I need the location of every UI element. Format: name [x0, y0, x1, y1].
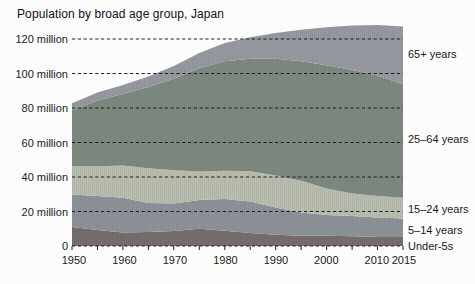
halftone-texture — [72, 25, 403, 246]
x-axis-label-1970: 1970 — [155, 254, 195, 266]
y-axis-label-20m: 20 million — [0, 206, 68, 218]
x-axis-label-1950: 1950 — [54, 254, 94, 266]
x-axis-label-2015: 2015 — [384, 254, 424, 266]
stacked-area-plot — [0, 0, 475, 284]
x-axis-label-1990: 1990 — [256, 254, 296, 266]
x-axis-label-2000: 2000 — [306, 254, 346, 266]
y-axis-label-0: 0 — [0, 240, 68, 252]
y-axis-label-120m: 120 million — [0, 33, 68, 45]
series-label-under5: Under-5s — [408, 240, 453, 252]
series-label-5-14: 5–14 years — [408, 224, 462, 236]
y-axis-label-80m: 80 million — [0, 102, 68, 114]
population-chart: Population by broad age group, Japan 120… — [0, 0, 475, 284]
series-label-15-24: 15–24 years — [408, 203, 469, 215]
x-axis-label-1980: 1980 — [205, 254, 245, 266]
series-label-25-64: 25–64 years — [408, 133, 469, 145]
y-axis-label-60m: 60 million — [0, 137, 68, 149]
chart-title: Population by broad age group, Japan — [17, 7, 224, 21]
y-axis-label-100m: 100 million — [0, 68, 68, 80]
y-axis-label-40m: 40 million — [0, 171, 68, 183]
x-axis-label-1960: 1960 — [105, 254, 145, 266]
series-label-65plus: 65+ years — [408, 48, 457, 60]
